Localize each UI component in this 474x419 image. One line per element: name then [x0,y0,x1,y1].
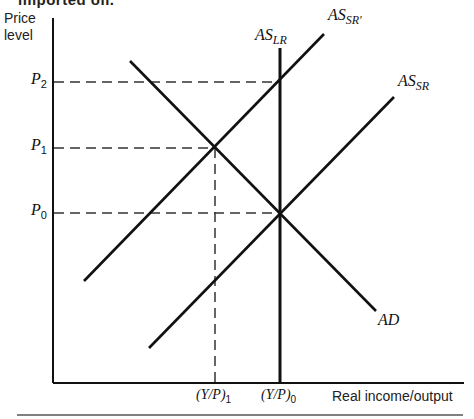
as-sr-label: ASSR [398,72,429,94]
as-ad-diagram [0,0,474,419]
y-axis-title-line2: level [4,27,36,44]
output-label-y0: (Y/P)0 [261,387,296,405]
price-label-p1: P1 [31,136,47,156]
as-sr-prime-label: ASSR' [328,6,362,28]
as-sr-prime-curve [84,34,324,281]
price-label-p0: P0 [31,201,47,221]
y-axis-title-line1: Price [4,10,36,27]
ad-curve [130,61,376,311]
as-sr-curve [149,97,394,348]
output-label-y1: (Y/P)1 [196,387,231,405]
ad-label: AD [378,311,399,329]
x-axis-title: Real income/output [332,388,453,404]
price-label-p2: P2 [31,70,47,90]
y-axis-title: Price level [4,10,36,44]
as-lr-label: ASLR [255,26,287,48]
